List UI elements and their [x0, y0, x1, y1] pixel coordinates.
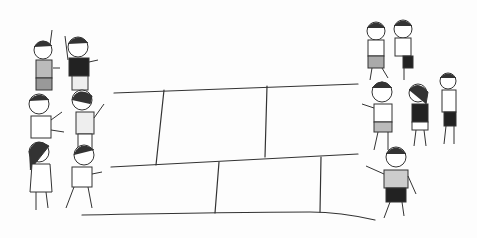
- child-right-5: [440, 73, 456, 144]
- child-left-5: [29, 142, 52, 210]
- illustration: [0, 0, 477, 238]
- child-right-4: [409, 84, 428, 146]
- child-left-1: [34, 30, 60, 90]
- child-right-1: [367, 22, 388, 80]
- right-team: [362, 20, 456, 218]
- child-left-4: [72, 90, 104, 150]
- scene-svg: [0, 0, 477, 238]
- child-left-2: [65, 36, 98, 90]
- child-left-6: [66, 145, 102, 208]
- child-right-3: [362, 82, 392, 150]
- child-right-6: [366, 147, 416, 218]
- child-right-2: [394, 20, 413, 80]
- court-lines: [82, 84, 375, 220]
- child-left-3: [29, 94, 64, 138]
- left-team: [29, 30, 104, 210]
